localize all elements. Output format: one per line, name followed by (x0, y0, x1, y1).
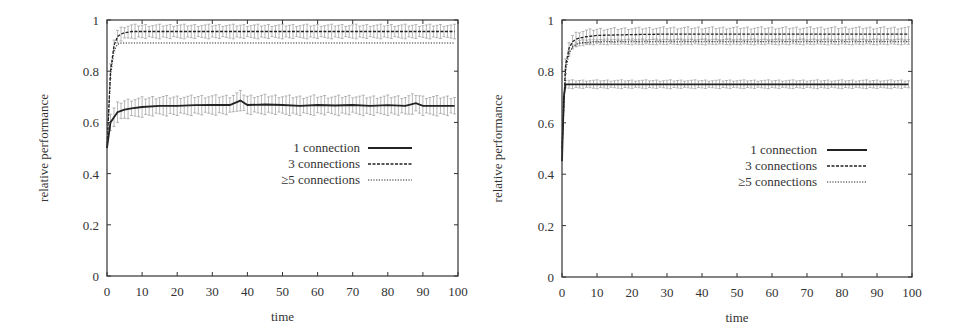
plot-frame (562, 20, 912, 277)
x-axis-label: time (725, 310, 748, 325)
series-line-1 (562, 34, 909, 148)
legend-label-0: 1 connection (750, 142, 817, 157)
y-axis-label: relative performance (490, 94, 505, 202)
y-tick-label: 0.6 (538, 116, 555, 131)
legend-label-1: 3 connections (745, 158, 817, 173)
y-tick-label: 1 (548, 13, 555, 28)
x-tick-label: 60 (766, 285, 779, 300)
x-tick-label: 30 (661, 285, 674, 300)
error-bars-1 (564, 27, 910, 74)
y-tick-label: 0.8 (538, 64, 554, 79)
legend: 1 connection3 connections≥5 connections (738, 142, 867, 189)
x-tick-label: 80 (836, 285, 849, 300)
x-tick-label: 70 (801, 285, 814, 300)
y-tick-label: 0 (548, 270, 555, 285)
x-tick-label: 0 (559, 285, 566, 300)
chart-right: 010203040506070809010000.20.40.60.81time… (0, 0, 965, 336)
x-tick-label: 50 (731, 285, 744, 300)
y-tick-label: 0.2 (538, 219, 554, 234)
x-tick-label: 10 (591, 285, 604, 300)
y-tick-label: 0.4 (538, 167, 555, 182)
x-tick-label: 100 (902, 285, 922, 300)
x-tick-label: 40 (696, 285, 709, 300)
error-bars-2 (564, 39, 910, 74)
x-tick-label: 20 (626, 285, 639, 300)
series-line-2 (562, 42, 909, 149)
legend-label-2: ≥5 connections (738, 174, 817, 189)
chart-right-svg: 010203040506070809010000.20.40.60.81time… (0, 0, 965, 336)
x-tick-label: 90 (871, 285, 884, 300)
